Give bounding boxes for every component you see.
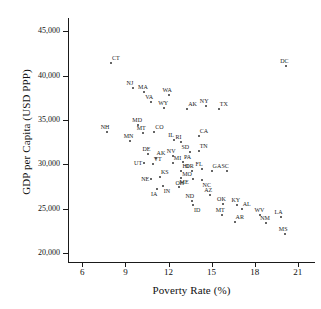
data-point-label: NV [167, 148, 176, 154]
data-points-layer: DCCTNJMAWAVAAKWYNYTXNHMDMTCOMNILCARIDENV… [0, 0, 321, 309]
data-point-label: AZ [204, 187, 212, 193]
data-point-marker [168, 94, 170, 96]
data-point-marker [150, 101, 152, 103]
data-point-label: SC [221, 163, 228, 169]
data-point-label: MI [174, 155, 181, 161]
data-point-label: AL [243, 201, 251, 207]
data-point-label: AK [188, 101, 197, 107]
scatter-chart: 20,00025,00030,00035,00040,00045,000 691… [0, 0, 321, 309]
data-point-marker [106, 131, 108, 133]
data-point-marker [198, 150, 200, 152]
data-point-marker [162, 185, 164, 187]
data-point-label: DC [280, 58, 288, 64]
data-point-marker [178, 186, 180, 188]
data-point-label: CA [200, 128, 208, 134]
data-point-label: KY [231, 197, 240, 203]
data-point-label: SD [181, 144, 189, 150]
data-point-label: MD [132, 117, 142, 123]
data-point-label: NM [260, 215, 270, 221]
data-point-marker [285, 65, 287, 67]
data-point-marker [198, 135, 200, 137]
data-point-label: UT [134, 160, 142, 166]
data-point-marker [143, 162, 145, 164]
data-point-label: VT [154, 156, 162, 162]
data-point-label: MT [137, 125, 146, 131]
data-point-label: ME [180, 179, 189, 185]
data-point-label: DE [142, 146, 150, 152]
data-point-marker [182, 161, 184, 163]
data-point-label: MN [124, 133, 134, 139]
data-point-label: ID [194, 207, 200, 213]
x-axis-title: Poverty Rate (%) [68, 284, 315, 296]
data-point-marker [180, 177, 182, 179]
data-point-marker [205, 105, 207, 107]
data-point-label: MT [216, 207, 225, 213]
data-point-label: PA [184, 154, 191, 160]
data-point-label: IN [164, 188, 170, 194]
data-point-label: CT [112, 55, 120, 61]
data-point-marker [159, 176, 161, 178]
data-point-marker [218, 108, 220, 110]
data-point-marker [129, 140, 131, 142]
data-point-label: MS [279, 226, 288, 232]
data-point-marker [150, 178, 152, 180]
data-point-label: NH [101, 124, 110, 130]
data-point-marker [241, 208, 243, 210]
data-point-marker [192, 204, 194, 206]
data-point-marker [226, 170, 228, 172]
y-axis-title: GDP per Capita (USD PPP) [20, 32, 32, 232]
data-point-marker [143, 91, 145, 93]
data-point-marker [186, 108, 188, 110]
data-point-label: ND [186, 193, 195, 199]
data-point-label: IL [168, 132, 174, 138]
data-point-marker [280, 216, 282, 218]
data-point-label: CO [155, 124, 163, 130]
data-point-marker [234, 221, 236, 223]
data-point-marker [132, 87, 134, 89]
data-point-marker [147, 153, 149, 155]
data-point-label: NJ [127, 80, 134, 86]
data-point-marker [211, 170, 213, 172]
data-point-marker [221, 214, 223, 216]
data-point-label: OR [186, 163, 194, 169]
data-point-label: WA [163, 87, 172, 93]
data-point-label: VA [145, 94, 153, 100]
data-point-label: MA [138, 84, 148, 90]
data-point-marker [236, 204, 238, 206]
data-point-label: NE [141, 176, 149, 182]
data-point-label: TN [200, 143, 208, 149]
data-point-label: OK [217, 196, 226, 202]
data-point-marker [265, 222, 267, 224]
data-point-label: WY [158, 100, 168, 106]
data-point-marker [153, 131, 155, 133]
data-point-label: AR [236, 214, 244, 220]
data-point-label: NY [200, 98, 209, 104]
data-point-label: IA [151, 191, 157, 197]
data-point-marker [284, 233, 286, 235]
data-point-label: TX [220, 101, 228, 107]
data-point-label: GA [213, 163, 222, 169]
data-point-marker [201, 168, 203, 170]
data-point-marker [172, 162, 174, 164]
data-point-marker [110, 62, 112, 64]
data-point-label: RI [175, 134, 181, 140]
data-point-marker [209, 194, 211, 196]
data-point-marker [152, 163, 154, 165]
data-point-label: KS [161, 169, 169, 175]
data-point-label: AK [157, 150, 166, 156]
data-point-marker [189, 151, 191, 153]
data-point-marker [156, 188, 158, 190]
data-point-marker [222, 203, 224, 205]
data-point-label: LA [275, 209, 283, 215]
data-point-marker [191, 200, 193, 202]
data-point-label: FL [196, 161, 203, 167]
data-point-marker [201, 179, 203, 181]
data-point-marker [163, 107, 165, 109]
data-point-label: WV [254, 207, 264, 213]
data-point-marker [142, 132, 144, 134]
data-point-marker [192, 178, 194, 180]
data-point-label: MO [182, 171, 192, 177]
data-point-marker [180, 141, 182, 143]
